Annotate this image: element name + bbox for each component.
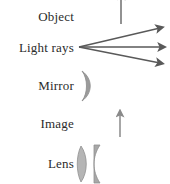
legend-label-mirror: Mirror	[0, 79, 74, 93]
legend-row-mirror: Mirror	[0, 68, 170, 104]
symbol-mirror-arc	[74, 68, 170, 104]
legend-label-light-rays: Light rays	[0, 41, 74, 55]
legend-label-lens: Lens	[0, 157, 74, 171]
legend-row-image: Image	[0, 106, 170, 142]
light-ray-lower	[79, 47, 160, 63]
symbol-image-arrow	[74, 106, 170, 142]
symbol-lens	[74, 144, 170, 184]
legend-label-image: Image	[0, 117, 74, 131]
legend-row-light-rays: Light rays	[0, 30, 170, 70]
mirror-arc-shape	[82, 71, 90, 101]
legend-label-object: Object	[0, 10, 74, 24]
legend-row-lens: Lens	[0, 144, 170, 184]
lens-plano-convex-shape	[94, 145, 100, 183]
symbol-light-rays	[74, 30, 170, 70]
light-ray-upper	[79, 28, 160, 47]
lens-biconvex-shape	[77, 146, 86, 182]
optics-legend-figure: Object Light rays	[0, 0, 170, 184]
